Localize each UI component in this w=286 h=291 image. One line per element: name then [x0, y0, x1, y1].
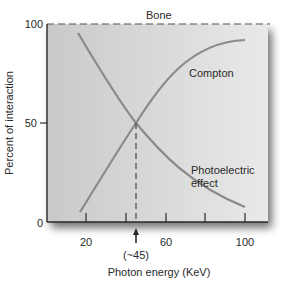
y-tick-label-50: 50 [25, 117, 37, 129]
x-tick-label-60: 60 [160, 236, 172, 248]
x-axis-label: Photon energy (KeV) [108, 266, 211, 278]
y-tick-label-0: 0 [37, 217, 43, 229]
arrow-up-icon [133, 228, 139, 235]
x-tick-label-20: 20 [80, 236, 92, 248]
y-axis-label: Percent of interaction [3, 71, 15, 175]
photoelectric-label-line1: Photoelectric [191, 164, 255, 176]
crossover-label: (~45) [123, 249, 149, 261]
x-tick-label-100: 100 [236, 236, 254, 248]
y-tick-label-100: 100 [25, 18, 43, 30]
chart-title: Bone [146, 9, 172, 21]
photoelectric-label-line2: effect [191, 177, 218, 189]
plot-area [47, 24, 268, 222]
chart: Bone 100 50 0 20 60 100 (~45) Photon ene… [0, 0, 286, 291]
compton-label: Compton [189, 67, 234, 79]
